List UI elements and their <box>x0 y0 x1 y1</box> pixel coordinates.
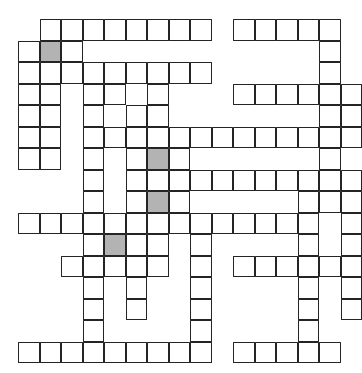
crossword-cell[interactable] <box>255 127 277 149</box>
crossword-cell[interactable] <box>126 213 148 235</box>
crossword-cell[interactable] <box>341 299 362 321</box>
crossword-cell[interactable] <box>40 148 62 170</box>
crossword-cell[interactable] <box>319 105 341 127</box>
crossword-cell[interactable] <box>83 213 105 235</box>
crossword-cell[interactable] <box>298 127 320 149</box>
crossword-cell[interactable] <box>83 342 105 364</box>
crossword-cell[interactable] <box>147 342 169 364</box>
crossword-cell[interactable] <box>319 62 341 84</box>
crossword-cell[interactable] <box>126 148 148 170</box>
crossword-cell[interactable] <box>255 170 277 192</box>
crossword-cell[interactable] <box>18 41 40 63</box>
crossword-cell[interactable] <box>233 213 255 235</box>
crossword-cell[interactable] <box>341 256 362 278</box>
crossword-cell[interactable] <box>255 84 277 106</box>
crossword-cell[interactable] <box>18 127 40 149</box>
crossword-cell[interactable] <box>319 19 341 41</box>
crossword-cell[interactable] <box>298 256 320 278</box>
crossword-cell-shaded[interactable] <box>147 191 169 213</box>
crossword-cell[interactable] <box>169 19 191 41</box>
crossword-cell[interactable] <box>83 234 105 256</box>
crossword-cell[interactable] <box>233 84 255 106</box>
crossword-cell[interactable] <box>190 19 212 41</box>
crossword-cell[interactable] <box>83 191 105 213</box>
crossword-cell[interactable] <box>276 19 298 41</box>
crossword-cell[interactable] <box>233 127 255 149</box>
crossword-cell[interactable] <box>83 84 105 106</box>
crossword-cell[interactable] <box>126 170 148 192</box>
crossword-cell[interactable] <box>233 256 255 278</box>
crossword-cell[interactable] <box>147 256 169 278</box>
crossword-cell[interactable] <box>83 170 105 192</box>
crossword-cell[interactable] <box>126 234 148 256</box>
crossword-cell[interactable] <box>147 84 169 106</box>
crossword-cell[interactable] <box>212 127 234 149</box>
crossword-cell[interactable] <box>104 19 126 41</box>
crossword-cell[interactable] <box>319 41 341 63</box>
crossword-cell[interactable] <box>298 277 320 299</box>
crossword-cell[interactable] <box>104 62 126 84</box>
crossword-cell[interactable] <box>255 342 277 364</box>
crossword-cell[interactable] <box>319 127 341 149</box>
crossword-cell[interactable] <box>147 170 169 192</box>
crossword-cell[interactable] <box>319 148 341 170</box>
crossword-cell[interactable] <box>341 191 362 213</box>
crossword-cell[interactable] <box>18 213 40 235</box>
crossword-cell[interactable] <box>298 234 320 256</box>
crossword-cell[interactable] <box>83 299 105 321</box>
crossword-cell[interactable] <box>83 320 105 342</box>
crossword-cell[interactable] <box>169 148 191 170</box>
crossword-cell[interactable] <box>233 170 255 192</box>
crossword-cell[interactable] <box>298 191 320 213</box>
crossword-cell[interactable] <box>298 19 320 41</box>
crossword-cell[interactable] <box>341 84 362 106</box>
crossword-cell[interactable] <box>104 127 126 149</box>
crossword-cell[interactable] <box>83 277 105 299</box>
crossword-cell[interactable] <box>40 105 62 127</box>
crossword-cell[interactable] <box>147 234 169 256</box>
crossword-cell[interactable] <box>319 170 341 192</box>
crossword-cell[interactable] <box>40 342 62 364</box>
crossword-cell[interactable] <box>276 170 298 192</box>
crossword-cell[interactable] <box>61 62 83 84</box>
crossword-cell[interactable] <box>126 256 148 278</box>
crossword-cell[interactable] <box>126 342 148 364</box>
crossword-cell[interactable] <box>276 213 298 235</box>
crossword-cell[interactable] <box>126 191 148 213</box>
crossword-cell[interactable] <box>104 213 126 235</box>
crossword-cell[interactable] <box>319 191 341 213</box>
crossword-cell-shaded[interactable] <box>40 41 62 63</box>
crossword-cell[interactable] <box>40 62 62 84</box>
crossword-cell[interactable] <box>147 213 169 235</box>
crossword-cell[interactable] <box>255 19 277 41</box>
crossword-cell[interactable] <box>169 127 191 149</box>
crossword-cell[interactable] <box>61 19 83 41</box>
crossword-cell[interactable] <box>18 84 40 106</box>
crossword-cell[interactable] <box>255 256 277 278</box>
crossword-cell[interactable] <box>190 320 212 342</box>
crossword-cell[interactable] <box>83 19 105 41</box>
crossword-cell[interactable] <box>40 213 62 235</box>
crossword-cell[interactable] <box>83 148 105 170</box>
crossword-cell[interactable] <box>298 213 320 235</box>
crossword-cell[interactable] <box>190 170 212 192</box>
crossword-cell[interactable] <box>18 342 40 364</box>
crossword-cell[interactable] <box>83 62 105 84</box>
crossword-cell-shaded[interactable] <box>147 148 169 170</box>
crossword-cell[interactable] <box>190 62 212 84</box>
crossword-cell[interactable] <box>18 105 40 127</box>
crossword-cell[interactable] <box>212 213 234 235</box>
crossword-cell[interactable] <box>298 342 320 364</box>
crossword-cell[interactable] <box>341 170 362 192</box>
crossword-cell[interactable] <box>190 127 212 149</box>
crossword-cell[interactable] <box>190 277 212 299</box>
crossword-cell[interactable] <box>169 170 191 192</box>
crossword-cell[interactable] <box>341 105 362 127</box>
crossword-cell[interactable] <box>126 105 148 127</box>
crossword-cell[interactable] <box>341 277 362 299</box>
crossword-cell[interactable] <box>190 213 212 235</box>
crossword-cell[interactable] <box>190 256 212 278</box>
crossword-cell[interactable] <box>190 342 212 364</box>
crossword-cell[interactable] <box>276 256 298 278</box>
